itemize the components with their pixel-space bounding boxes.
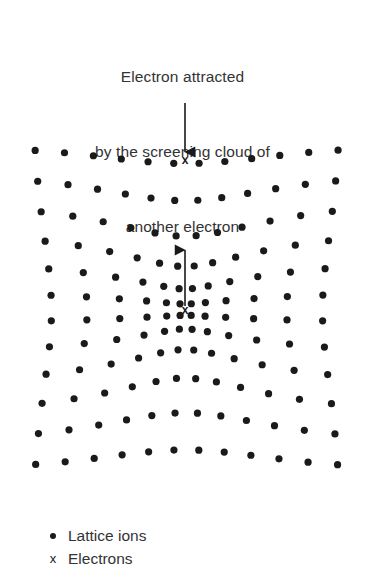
lattice-ion [193, 232, 200, 239]
lattice-ion [148, 412, 155, 419]
lattice-ion [191, 262, 198, 269]
lattice-ion [209, 259, 216, 266]
lattice-ion [75, 242, 82, 249]
lattice-ion [194, 410, 201, 417]
legend-label-lattice-ions: Lattice ions [68, 524, 146, 547]
lattice-ion [202, 299, 209, 306]
lattice-ion [221, 158, 228, 165]
lattice-ion [259, 361, 266, 368]
lattice-ion [45, 265, 52, 272]
lattice-ion [163, 312, 170, 319]
lattice-ion [244, 190, 251, 197]
lattice-ion [271, 422, 278, 429]
lattice-ion [265, 390, 272, 397]
lattice-ion [286, 340, 293, 347]
lattice-ion [176, 285, 183, 292]
lattice-ion [171, 409, 178, 416]
lattice-ion [221, 448, 228, 455]
lattice-ion [248, 155, 255, 162]
lattice-ion [42, 371, 49, 378]
lattice-ion [81, 340, 88, 347]
lattice-ion [80, 269, 87, 276]
lattice-ion [48, 317, 55, 324]
incoming-electron: x [182, 153, 189, 167]
lattice-ion [70, 395, 77, 402]
lattice-ion [305, 149, 312, 156]
lattice-ion [127, 224, 134, 231]
lattice-ion [276, 152, 283, 159]
lattice-ion [152, 378, 159, 385]
lattice-ion [334, 461, 341, 468]
lattice-ion [324, 371, 331, 378]
lattice-ion [91, 455, 98, 462]
lattice-ion [116, 295, 123, 302]
lattice-ion [95, 421, 102, 428]
lattice-ion [147, 194, 154, 201]
lattice-ion [46, 343, 53, 350]
lattice-ion [42, 238, 49, 245]
lattice-ion [238, 224, 245, 231]
lattice-ion [123, 416, 130, 423]
lattice-ion [106, 248, 113, 255]
lattice-ion [217, 412, 224, 419]
lattice-ion [287, 269, 294, 276]
lattice-diagram: xx [0, 0, 365, 585]
lattice-ion [292, 242, 299, 249]
lattice-ion [222, 314, 229, 321]
lattice-ion [83, 293, 90, 300]
legend-item-lattice-ions: Lattice ions [44, 524, 304, 547]
lattice-ion [226, 278, 233, 285]
lattice-ion [173, 232, 180, 239]
lattice-ion [38, 400, 45, 407]
lattice-ion [304, 459, 311, 466]
lattice-ion [275, 455, 282, 462]
lattice-ion [302, 181, 309, 188]
lattice-ion [225, 332, 232, 339]
lattice-ion [250, 315, 257, 322]
x-marker-icon: x [44, 547, 62, 570]
lattice-ion [129, 383, 136, 390]
lattice-ion [143, 297, 150, 304]
lattice-ion [62, 458, 69, 465]
lattice-ion [231, 355, 238, 362]
lattice-ion [284, 293, 291, 300]
lattice-ion [266, 217, 273, 224]
lattice-ion [328, 400, 335, 407]
lattice-ion [205, 282, 212, 289]
lattice-ion [61, 149, 68, 156]
lattice-ion [195, 447, 202, 454]
lattice-ion [90, 152, 97, 159]
lattice-ion [250, 295, 257, 302]
lattice-ion [188, 326, 195, 333]
lattice-ion [332, 177, 339, 184]
lattice-ion [139, 279, 146, 286]
lattice-ion [301, 427, 308, 434]
lattice-ion [134, 254, 141, 261]
lattice-ion [38, 208, 45, 215]
lattice-ion [94, 186, 101, 193]
lattice-ion [135, 354, 142, 361]
lattice-ion [214, 229, 221, 236]
lattice-ion [65, 426, 72, 433]
lattice-ion [247, 452, 254, 459]
lattice-ion [253, 336, 260, 343]
lattice-ion [192, 375, 199, 382]
lattice-ion [116, 315, 123, 322]
lattice-ion [296, 396, 303, 403]
lattice-ion [64, 181, 71, 188]
lattice-ion [195, 160, 202, 167]
lattice-ion [237, 384, 244, 391]
lattice-ion [283, 316, 290, 323]
lattice-ion [190, 346, 197, 353]
lattice-ion [170, 160, 177, 167]
lattice-ion [329, 208, 336, 215]
lattice-ion [325, 237, 332, 244]
lattice-ion [156, 260, 163, 267]
lattice-ion [331, 430, 338, 437]
legend-item-electrons: x Electrons [44, 547, 304, 570]
lattice-ion [297, 212, 304, 219]
lattice-ion [188, 300, 195, 307]
lattice-ion [204, 328, 211, 335]
lattice-ion [151, 229, 158, 236]
lattice-ion [171, 197, 178, 204]
